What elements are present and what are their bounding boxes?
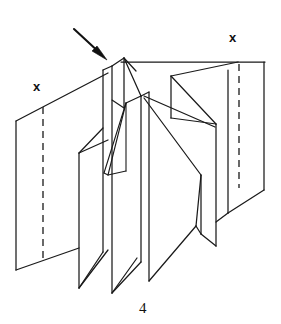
- fold-wedge-top-left: [112, 58, 124, 108]
- face-left-slant: [79, 128, 103, 153]
- panel-left-center-top-left-edge: [103, 66, 112, 70]
- right-leaf-bottom-right-edge: [201, 234, 216, 246]
- valley-spike-base-edge: [108, 171, 126, 175]
- panel-center-hub-bottom-right-edge: [149, 226, 196, 281]
- fan-apex-link: [126, 96, 141, 103]
- wedge-top-left-lower-edge: [112, 100, 124, 108]
- right-leaf-inner-tip: [196, 226, 201, 234]
- panel-left-center-bottom-right-edge: [112, 258, 137, 293]
- right-leaf-diag-edge: [171, 76, 216, 124]
- panel-left-center: [79, 66, 137, 293]
- valley-spike-right-edge: [108, 103, 126, 175]
- panel-center-hub-bottom-left-edge: [112, 262, 141, 293]
- ridge-top-right-down-edge: [124, 58, 136, 71]
- panel-left-center-bottom-edge: [79, 252, 103, 288]
- valley-spike-tip: [104, 173, 108, 175]
- valley-spike-left-edge: [104, 103, 126, 173]
- accordion-fold-diagram: [0, 0, 281, 324]
- figure-caption: 4: [139, 301, 147, 316]
- right-spine-bottom-right-edge: [228, 190, 264, 213]
- panel-far-left-bottom-edge: [16, 248, 79, 270]
- right-spine-bottom-edge: [216, 213, 228, 222]
- figure-container: x x 4: [0, 0, 281, 324]
- fan-diagonal-lower: [144, 98, 201, 175]
- ridge-top-right-diag: [124, 58, 141, 96]
- ridge-top-right: [121, 58, 265, 96]
- panel-far-left: [16, 73, 108, 270]
- fold-mark-left: x: [33, 80, 40, 93]
- face-left-slant-edge: [79, 128, 103, 153]
- right-leaf-inner-taper: [196, 175, 201, 226]
- panel-center-hub-top-edge: [141, 92, 149, 96]
- panel-left-inner-top-edge: [79, 140, 108, 153]
- panel-far-left-top-edge: [16, 73, 108, 121]
- direction-arrow: [74, 29, 107, 60]
- panel-center-hub: [112, 92, 196, 293]
- fold-mark-right: x: [229, 31, 236, 44]
- panel-far-right: [239, 62, 264, 190]
- right-leaf-lower-edge: [171, 118, 216, 124]
- panel-right-spine: [216, 70, 264, 222]
- fold-valley-spike: [104, 103, 126, 175]
